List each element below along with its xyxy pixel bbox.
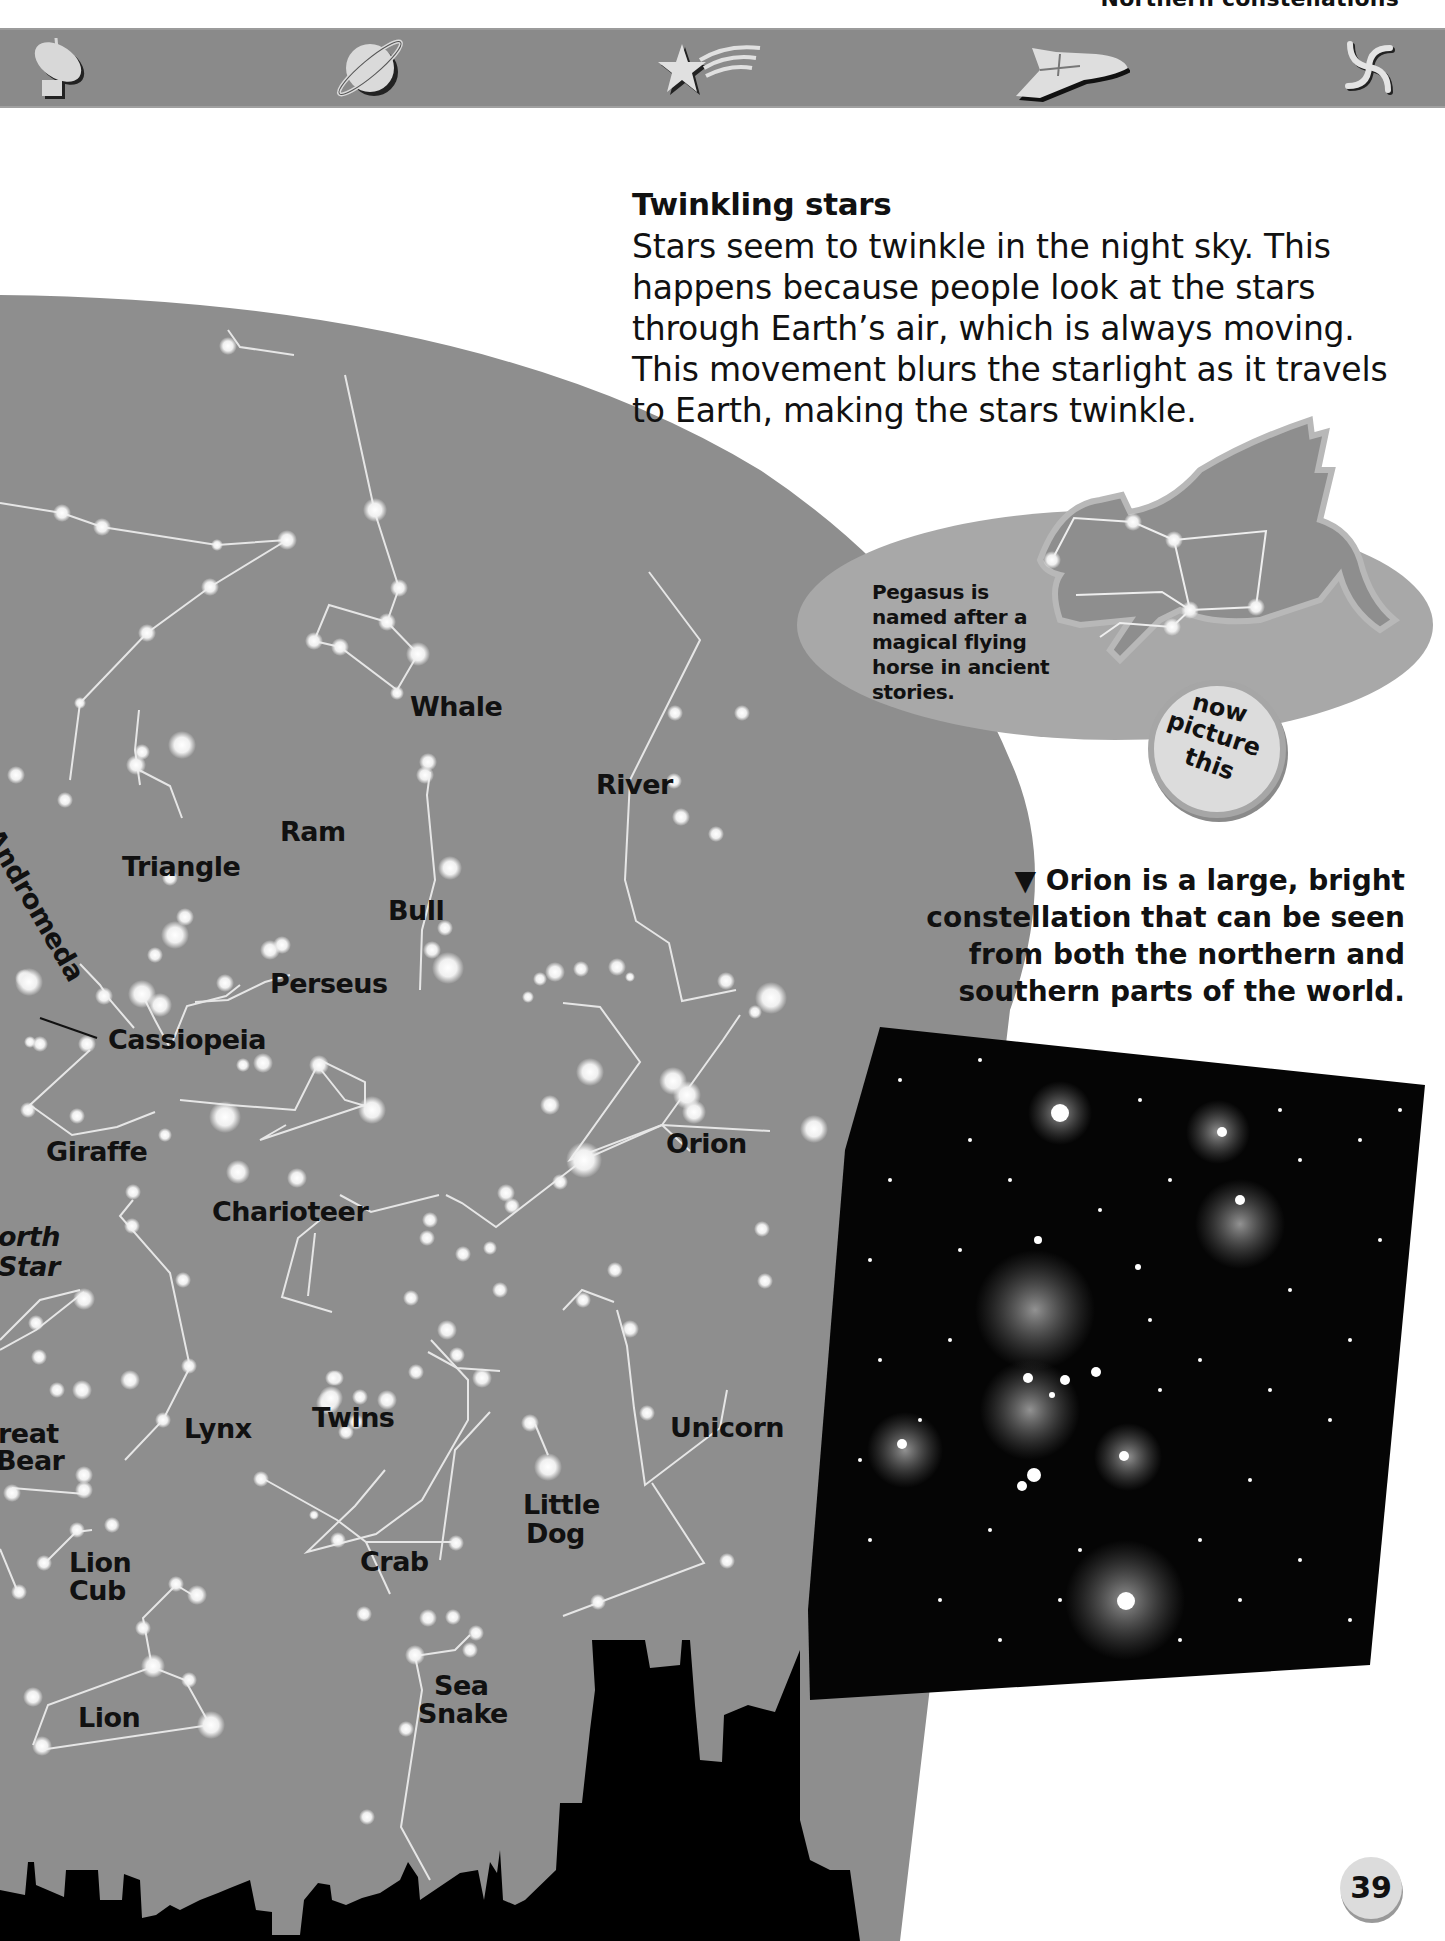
section-body: Stars seem to twinkle in the night sky. …: [632, 226, 1392, 431]
label-giraffe: Giraffe: [46, 1138, 147, 1166]
label-unicorn: Unicorn: [670, 1414, 784, 1442]
label-sea-snake-line1: Sea: [434, 1672, 488, 1700]
label-bull: Bull: [388, 897, 444, 925]
now-picture-this-badge: now picture this: [1148, 680, 1286, 818]
label-north-star-line2: Star: [0, 1253, 60, 1281]
label-charioteer: Charioteer: [212, 1198, 368, 1226]
label-sea-snake-line2: Snake: [418, 1700, 508, 1728]
label-little-dog-line2: Dog: [526, 1520, 585, 1548]
label-ram: Ram: [280, 818, 346, 846]
label-lion: Lion: [78, 1704, 140, 1732]
caption-marker-icon: ▼: [1014, 864, 1036, 897]
label-twins: Twins: [312, 1404, 394, 1432]
page-number: 39: [1340, 1857, 1402, 1919]
label-lion-cub-line1: Lion: [69, 1549, 131, 1577]
label-north-star-line1: orth: [0, 1223, 60, 1251]
label-great-bear-line1: reat: [0, 1420, 59, 1448]
pegasus-note: Pegasus is named after a magical flying …: [872, 580, 1052, 705]
label-orion: Orion: [666, 1130, 747, 1158]
label-triangle: Triangle: [122, 853, 240, 881]
orion-photograph: [808, 1027, 1425, 1700]
label-lion-cub-line2: Cub: [69, 1577, 126, 1605]
orion-caption: ▼ Orion is a large, bright constellation…: [885, 862, 1405, 1010]
caption-text: Orion is a large, bright constellation t…: [926, 864, 1405, 1008]
label-cassiopeia: Cassiopeia: [108, 1026, 266, 1054]
label-whale: Whale: [410, 693, 502, 721]
label-little-dog-line1: Little: [523, 1491, 600, 1519]
label-great-bear-line2: Bear: [0, 1447, 64, 1475]
section-heading: Twinkling stars: [632, 186, 1392, 222]
label-lynx: Lynx: [184, 1415, 252, 1443]
twinkling-stars-section: Twinkling stars Stars seem to twinkle in…: [632, 186, 1392, 431]
label-river: River: [596, 771, 673, 799]
label-crab: Crab: [360, 1548, 429, 1576]
label-perseus: Perseus: [270, 970, 388, 998]
